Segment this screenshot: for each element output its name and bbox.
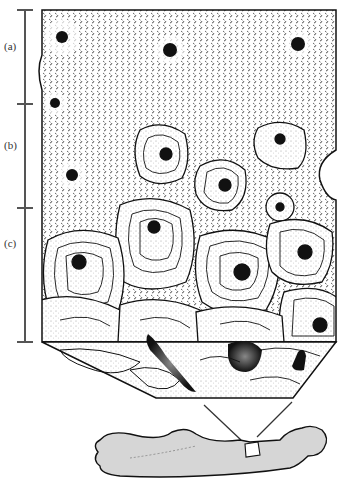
scale-bar (17, 10, 33, 342)
bone-histology-illustration: (a) (b) (c) (0, 0, 362, 486)
bone-section (40, 8, 340, 348)
connector-line-left (204, 405, 241, 440)
longitudinal-face (42, 334, 336, 398)
label-c: (c) (4, 237, 17, 250)
label-a: (a) (4, 40, 17, 53)
label-b: (b) (4, 139, 17, 152)
femur-bone (95, 426, 326, 477)
sample-location-marker (245, 442, 260, 457)
connector-line-right (257, 402, 292, 437)
